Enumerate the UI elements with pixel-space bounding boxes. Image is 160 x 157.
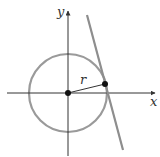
x-axis-label: x [150,94,158,109]
radius-label: r [80,72,87,87]
radius-segment [68,84,105,93]
tangent-point [102,81,108,87]
circle-tangent-diagram: y x r [0,0,160,157]
origin-point [65,90,71,96]
y-axis-label: y [56,4,65,19]
